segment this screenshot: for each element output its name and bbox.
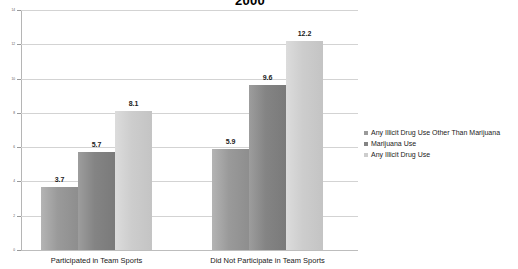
bar-value-label: 8.1 xyxy=(115,100,152,107)
y-tick-label: 10 xyxy=(0,77,15,81)
y-tick-mark xyxy=(17,250,21,251)
bar-value-label: 3.7 xyxy=(41,176,78,183)
legend-label: Any Illicit Drug Use xyxy=(371,150,430,159)
y-tick-label: 6 xyxy=(0,145,15,149)
legend-swatch-icon xyxy=(364,142,368,146)
y-tick-label: 0 xyxy=(0,248,15,252)
legend-item[interactable]: Any Illicit Drug Use xyxy=(364,149,518,160)
bar xyxy=(78,152,115,250)
bar-value-label: 12.2 xyxy=(286,30,323,37)
bar-chart: 2000 02468101214 3.75.78.15.99.612.2 Par… xyxy=(0,0,518,269)
plot-area xyxy=(21,10,358,250)
legend-swatch-icon xyxy=(364,131,368,135)
y-tick-label: 14 xyxy=(0,8,15,12)
x-axis-category-label: Did Not Participate in Team Sports xyxy=(168,256,368,265)
legend-swatch-icon xyxy=(364,153,368,157)
legend-item[interactable]: Any Illicit Drug Use Other Than Marijuan… xyxy=(364,127,518,138)
chart-legend: Any Illicit Drug Use Other Than Marijuan… xyxy=(364,127,518,160)
y-tick-label: 4 xyxy=(0,179,15,183)
chart-title: 2000 xyxy=(0,0,500,8)
bar-value-label: 5.7 xyxy=(78,141,115,148)
legend-label: Marijuana Use xyxy=(371,139,416,148)
bar xyxy=(41,187,78,250)
bar xyxy=(249,85,286,250)
y-tick-label: 2 xyxy=(0,214,15,218)
y-tick-label: 8 xyxy=(0,111,15,115)
gridline xyxy=(21,250,358,251)
bar-value-label: 5.9 xyxy=(212,138,249,145)
bar xyxy=(212,149,249,250)
bar xyxy=(115,111,152,250)
legend-item[interactable]: Marijuana Use xyxy=(364,138,518,149)
bar xyxy=(286,41,323,250)
bar-value-label: 9.6 xyxy=(249,74,286,81)
legend-label: Any Illicit Drug Use Other Than Marijuan… xyxy=(371,128,500,137)
y-tick-label: 12 xyxy=(0,42,15,46)
